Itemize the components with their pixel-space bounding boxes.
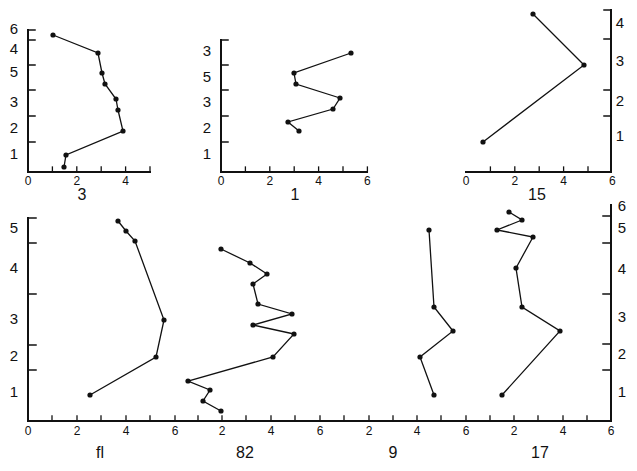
data-point	[132, 238, 137, 243]
x-tick-label: 0	[25, 174, 32, 188]
series-82	[185, 246, 296, 413]
panel-3: 6453210243	[10, 20, 150, 203]
panel-label: 1	[291, 186, 300, 203]
x-tick-label: 6	[608, 424, 615, 438]
panel-1: 3532102461	[203, 40, 371, 203]
x-tick-label: 4	[268, 424, 275, 438]
data-point	[218, 246, 223, 251]
data-point	[506, 209, 511, 214]
data-point	[264, 271, 269, 276]
panel-label: 9	[389, 444, 398, 461]
y-tick-label: 4	[616, 14, 624, 31]
y-tick-label: 4	[10, 40, 18, 57]
data-point	[450, 328, 455, 333]
x-tick-label: 4	[315, 174, 322, 188]
data-point	[63, 152, 68, 157]
panel-15: 4321024615	[463, 10, 625, 203]
y-tick-label: 1	[618, 383, 626, 400]
y-tick-label: 1	[203, 145, 211, 162]
y-tick-label: 2	[10, 347, 18, 364]
data-point	[417, 354, 422, 359]
panel-label: 3	[78, 186, 87, 203]
data-point	[289, 311, 294, 316]
y-tick-label: 4	[10, 259, 18, 276]
data-point	[115, 107, 120, 112]
data-point	[250, 322, 255, 327]
data-line	[420, 230, 453, 395]
panel-label: 82	[236, 444, 254, 461]
data-line	[483, 14, 584, 142]
y-tick-label: 3	[10, 93, 18, 110]
x-tick-label: 2	[74, 424, 81, 438]
data-point	[513, 265, 518, 270]
data-point	[499, 392, 504, 397]
data-point	[250, 281, 255, 286]
x-tick-label: 0	[218, 174, 225, 188]
data-point	[113, 96, 118, 101]
multi-panel-profile-chart: 6453210243353210246143210246150246246246…	[0, 0, 637, 471]
x-tick-label: 6	[463, 424, 470, 438]
y-tick-label: 2	[616, 92, 624, 109]
y-tick-label: 4	[618, 260, 626, 277]
data-line	[288, 53, 351, 131]
data-line	[188, 249, 294, 411]
y-tick-label: 3	[203, 93, 211, 110]
panel-17: 17	[494, 209, 562, 461]
data-point	[123, 228, 128, 233]
data-point	[95, 50, 100, 55]
x-tick-label: 2	[266, 174, 273, 188]
x-tick-label: 2	[511, 424, 518, 438]
y-tick-label: 1	[616, 127, 624, 144]
data-line	[90, 221, 164, 395]
series-3	[50, 32, 125, 169]
data-point	[330, 106, 335, 111]
x-tick-label: 6	[364, 174, 371, 188]
panel-82: 82	[185, 246, 296, 461]
data-point	[431, 304, 436, 309]
data-line	[497, 212, 560, 395]
y-tick-label: 6	[618, 197, 626, 214]
series-1	[285, 50, 353, 133]
x-tick-label: 4	[414, 424, 421, 438]
data-point	[480, 139, 485, 144]
data-point	[153, 354, 158, 359]
y-tick-label: 3	[616, 52, 624, 69]
panel-label: 15	[528, 186, 546, 203]
x-tick-label: 2	[511, 174, 518, 188]
data-point	[161, 317, 166, 322]
y-tick-label: 5	[10, 219, 18, 236]
series-9	[417, 227, 455, 397]
series-15	[480, 11, 586, 144]
y-tick-label: 6	[10, 20, 18, 37]
data-point	[337, 95, 342, 100]
x-tick-label: 4	[122, 174, 129, 188]
panel-label: fl	[96, 444, 104, 461]
data-point	[185, 378, 190, 383]
x-tick-label: 2	[219, 424, 226, 438]
data-point	[293, 81, 298, 86]
data-point	[207, 387, 212, 392]
y-tick-label: 5	[203, 68, 211, 85]
x-tick-label: 4	[560, 424, 567, 438]
data-point	[120, 128, 125, 133]
data-point	[270, 354, 275, 359]
x-tick-label: 6	[317, 424, 324, 438]
panel-label: 17	[531, 444, 549, 461]
y-tick-label: 3	[203, 42, 211, 59]
data-point	[99, 70, 104, 75]
panel-9: 9	[389, 227, 456, 461]
data-point	[431, 392, 436, 397]
data-point	[530, 234, 535, 239]
data-point	[581, 62, 586, 67]
data-point	[61, 164, 66, 169]
y-tick-label: 1	[10, 145, 18, 162]
figure: 6453210243353210246143210246150246246246…	[0, 0, 637, 471]
data-point	[115, 218, 120, 223]
y-tick-label: 2	[618, 345, 626, 362]
data-point	[557, 328, 562, 333]
x-tick-label: 0	[25, 424, 32, 438]
data-point	[296, 128, 301, 133]
y-tick-label: 3	[618, 308, 626, 325]
y-tick-label: 5	[618, 219, 626, 236]
data-point	[50, 32, 55, 37]
